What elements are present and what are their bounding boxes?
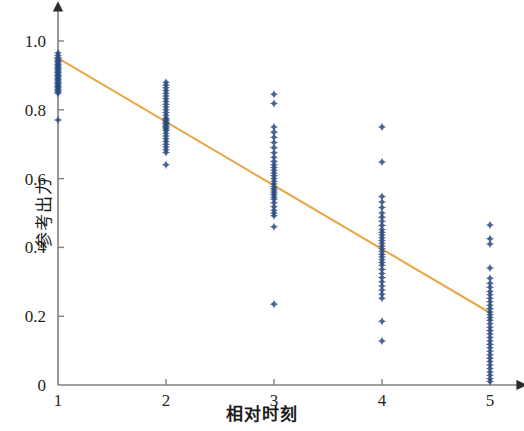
x-axis-label: 相对时刻 xyxy=(226,400,298,425)
data-point-marker xyxy=(486,221,495,230)
x-axis-tick-label: 2 xyxy=(162,392,171,409)
data-point-marker xyxy=(378,158,387,167)
data-point-marker xyxy=(378,294,387,303)
data-point-marker xyxy=(270,99,279,108)
x-axis-tick-label: 4 xyxy=(378,392,387,409)
data-point-marker xyxy=(486,264,495,273)
data-point-marker xyxy=(378,123,387,132)
data-point-marker xyxy=(270,90,279,99)
y-axis-tick-label: 0.2 xyxy=(0,308,46,325)
data-point-marker xyxy=(54,116,63,125)
data-point-marker xyxy=(378,337,387,346)
x-axis-tick-label: 5 xyxy=(486,392,495,409)
data-point-marker xyxy=(162,161,171,170)
y-axis-tick-label: 0.8 xyxy=(0,101,46,118)
x-axis-tick-label: 1 xyxy=(54,392,63,409)
data-points xyxy=(54,49,495,386)
y-axis-tick-label: 1.0 xyxy=(0,33,46,50)
y-axis-tick-label: 0 xyxy=(0,377,46,394)
axis-lines xyxy=(58,10,518,385)
data-point-marker xyxy=(270,222,279,231)
data-point-marker xyxy=(270,300,279,309)
plot-canvas xyxy=(0,0,524,431)
scatter-chart-figure: 00.20.40.60.81.012345 相对时刻 参考出力 xyxy=(0,0,524,431)
data-point-marker xyxy=(378,317,387,326)
y-axis-label: 参考出力 xyxy=(30,177,55,249)
data-point-marker xyxy=(486,240,495,249)
